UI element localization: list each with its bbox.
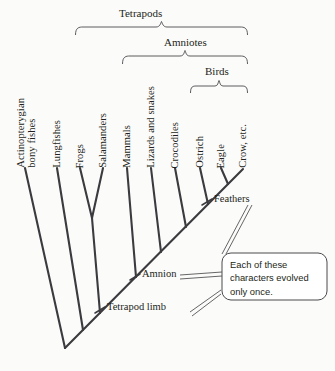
cladogram-svg xyxy=(0,0,335,371)
clade-brackets xyxy=(76,22,248,94)
branch-lungfishes xyxy=(57,168,83,330)
leader-amnion-a xyxy=(180,272,222,275)
tip-label-frogs: Frogs xyxy=(74,144,85,168)
clade-label-amniotes: Amniotes xyxy=(164,36,207,48)
tip-label-crocodiles: Crocodiles xyxy=(169,122,180,169)
character-label-feathers: Feathers xyxy=(214,193,250,204)
leader-feathers-a xyxy=(222,205,248,254)
leader-feathers-b xyxy=(226,205,252,254)
branch-salamanders xyxy=(92,168,103,218)
tip-label-lungfishes: Lungfishes xyxy=(51,120,62,168)
branch-crocodiles xyxy=(175,168,186,227)
bracket-tetrapods xyxy=(76,22,248,36)
tree-branches xyxy=(25,168,243,348)
figure-canvas: Tetrapods Amniotes Birds Actinopterygian… xyxy=(0,0,335,371)
leader-tetrapod-limb-a xyxy=(190,290,221,312)
character-label-amnion: Amnion xyxy=(142,268,176,279)
clade-label-birds: Birds xyxy=(205,65,229,77)
bracket-birds xyxy=(191,81,248,94)
tip-label-mammals: Mammals xyxy=(121,125,132,168)
tip-line-1: Actinopterygian xyxy=(15,98,26,168)
clade-label-tetrapods: Tetrapods xyxy=(119,7,162,19)
callout-text: Each of these characters evolved only on… xyxy=(230,258,322,298)
tip-label-salamanders: Salamanders xyxy=(97,113,108,168)
branch-eagle xyxy=(221,168,228,184)
branch-amphibia-stem xyxy=(92,218,100,313)
branch-frogs xyxy=(80,168,92,218)
tip-label-actinopterygian-bony-fishes: Actinopterygian bony fishes xyxy=(15,98,37,168)
character-ticks xyxy=(95,199,212,313)
branch-actinopterygian-bony-fishes xyxy=(25,168,65,348)
tip-label-eagle: Eagle xyxy=(215,144,226,168)
branch-ostrich xyxy=(200,168,208,204)
bracket-amniotes xyxy=(123,51,248,65)
tip-line-2: bony fishes xyxy=(26,119,37,168)
branch-mammals xyxy=(127,168,136,277)
character-label-tetrapod-limb: Tetrapod limb xyxy=(107,301,166,312)
leader-amnion-b xyxy=(180,276,222,279)
tip-label-lizards-and-snakes: Lizards and snakes xyxy=(145,86,156,168)
branch-lizards-and-snakes xyxy=(151,168,161,252)
tip-label-crow-etc: Crow, etc. xyxy=(237,124,248,168)
tip-label-ostrich: Ostrich xyxy=(194,136,205,168)
leader-tetrapod-limb-b xyxy=(192,294,221,316)
